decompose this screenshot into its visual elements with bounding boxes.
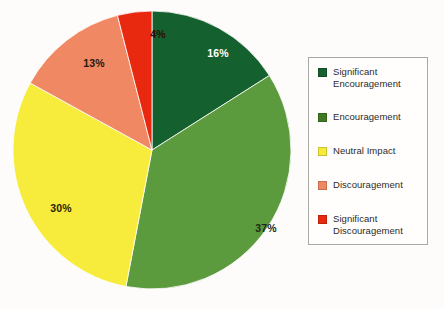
- pie-slice-percent-label: 37%: [255, 222, 277, 234]
- legend-item[interactable]: Neutral Impact: [318, 145, 421, 157]
- legend-item-label: Significant Discouragement: [333, 213, 403, 236]
- pie-chart-plot-area: 16%37%30%13%4%: [13, 10, 293, 290]
- pie-slice-percent-label: 4%: [150, 28, 166, 40]
- legend-item-label: Significant Encouragement: [333, 66, 401, 89]
- pie-slice-group: [13, 11, 291, 289]
- legend-swatch-icon: [318, 147, 327, 156]
- pie-svg: 16%37%30%13%4%: [13, 10, 293, 290]
- legend-item-list: Significant EncouragementEncouragementNe…: [318, 66, 421, 236]
- legend-swatch-icon: [318, 181, 327, 190]
- legend-item[interactable]: Significant Encouragement: [318, 66, 421, 89]
- legend-item[interactable]: Encouragement: [318, 111, 421, 123]
- legend-swatch-icon: [318, 215, 327, 224]
- legend-item-label: Neutral Impact: [333, 145, 395, 157]
- legend-item-label: Encouragement: [333, 111, 401, 123]
- pie-chart-figure: 16%37%30%13%4% Significant Encouragement…: [0, 0, 444, 309]
- legend: Significant EncouragementEncouragementNe…: [308, 57, 428, 245]
- legend-swatch-icon: [318, 113, 327, 122]
- pie-slice-percent-label: 13%: [83, 57, 105, 69]
- legend-item[interactable]: Discouragement: [318, 179, 421, 191]
- pie-slice-percent-label: 30%: [50, 202, 72, 214]
- pie-slice-percent-label: 16%: [207, 47, 229, 59]
- legend-item[interactable]: Significant Discouragement: [318, 213, 421, 236]
- legend-swatch-icon: [318, 68, 327, 77]
- legend-item-label: Discouragement: [333, 179, 403, 191]
